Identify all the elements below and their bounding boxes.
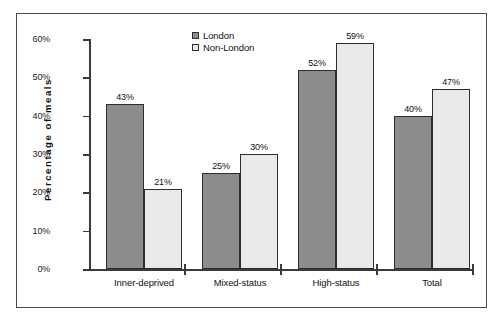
bar-label-high-status-non-london: 59% bbox=[336, 31, 374, 41]
bar-label-total-non-london: 47% bbox=[432, 77, 470, 87]
x-group-separator-2 bbox=[280, 264, 282, 275]
y-tick-10 bbox=[83, 231, 90, 233]
legend-label-non-london: Non-London bbox=[203, 42, 254, 53]
bar-label-total-london: 40% bbox=[394, 104, 432, 114]
bar-high-status-non-london[interactable] bbox=[336, 43, 374, 269]
bar-inner-deprived-london[interactable] bbox=[106, 104, 144, 269]
x-label-high-status: High-status bbox=[288, 277, 384, 288]
y-tick-label-60: 60% bbox=[14, 34, 50, 44]
x-group-separator-1 bbox=[184, 264, 186, 275]
chart-frame: Percentage of meals 60% 50% 40% 30% 20% … bbox=[16, 13, 487, 308]
y-tick-60 bbox=[83, 39, 90, 41]
x-label-mixed-status: Mixed-status bbox=[192, 277, 288, 288]
bar-label-inner-deprived-london: 43% bbox=[106, 92, 144, 102]
x-group-separator-3 bbox=[376, 264, 378, 275]
x-axis-end-tick bbox=[472, 264, 474, 275]
bar-high-status-london[interactable] bbox=[298, 70, 336, 269]
bar-total-non-london[interactable] bbox=[432, 89, 470, 269]
y-tick-0 bbox=[83, 269, 90, 271]
bar-label-mixed-status-london: 25% bbox=[202, 161, 240, 171]
legend-label-london: London bbox=[203, 30, 234, 41]
y-tick-label-10: 10% bbox=[14, 226, 50, 236]
x-label-inner-deprived: Inner-deprived bbox=[96, 277, 192, 288]
y-tick-label-20: 20% bbox=[14, 187, 50, 197]
y-tick-label-0: 0% bbox=[14, 264, 50, 274]
x-axis-line bbox=[89, 269, 474, 271]
legend-item-non-london[interactable]: Non-London bbox=[192, 41, 254, 53]
y-tick-40 bbox=[83, 116, 90, 118]
y-tick-label-40: 40% bbox=[14, 111, 50, 121]
y-tick-label-30: 30% bbox=[14, 149, 50, 159]
y-tick-50 bbox=[83, 77, 90, 79]
bar-mixed-status-non-london[interactable] bbox=[240, 154, 278, 269]
plot-area: Percentage of meals 60% 50% 40% 30% 20% … bbox=[17, 14, 488, 309]
bar-mixed-status-london[interactable] bbox=[202, 173, 240, 269]
x-label-total: Total bbox=[384, 277, 480, 288]
bar-label-inner-deprived-non-london: 21% bbox=[144, 177, 182, 187]
y-tick-30 bbox=[83, 154, 90, 156]
legend-item-london[interactable]: London bbox=[192, 29, 254, 41]
bar-label-high-status-london: 52% bbox=[298, 58, 336, 68]
bar-label-mixed-status-non-london: 30% bbox=[240, 142, 278, 152]
legend: London Non-London bbox=[189, 27, 260, 56]
legend-swatch-non-london-icon bbox=[192, 44, 199, 51]
bar-inner-deprived-non-london[interactable] bbox=[144, 189, 182, 270]
y-tick-20 bbox=[83, 192, 90, 194]
y-tick-label-50: 50% bbox=[14, 72, 50, 82]
legend-swatch-london-icon bbox=[192, 32, 199, 39]
bar-total-london[interactable] bbox=[394, 116, 432, 269]
